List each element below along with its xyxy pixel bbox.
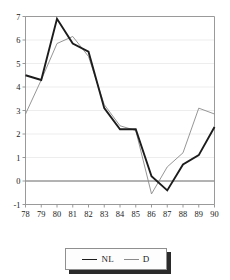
y-tick-label: 2 (16, 130, 20, 139)
x-tick-label: 82 (84, 210, 92, 219)
x-tick-label: 81 (69, 210, 77, 219)
series-line-d (26, 36, 215, 193)
x-axis-tick-labels: 78798081828384858687888990 (21, 210, 218, 219)
legend-label-d: D (143, 255, 150, 264)
x-tick-label: 85 (132, 210, 140, 219)
series-path-d (26, 36, 215, 193)
y-tick-label: -1 (14, 201, 21, 210)
series-path-nl (26, 19, 215, 191)
y-tick-label: 3 (16, 107, 20, 116)
x-tick-label: 83 (100, 210, 108, 219)
x-tick-label: 78 (21, 210, 29, 219)
x-tick-label: 89 (195, 210, 203, 219)
y-tick-label: 4 (16, 83, 21, 92)
legend-swatch-d-icon (124, 259, 139, 260)
y-tick-label: 1 (16, 154, 20, 163)
gridlines (26, 40, 215, 158)
x-tick-label: 86 (147, 210, 155, 219)
legend-swatch-nl-icon (82, 259, 97, 260)
x-tick-label: 80 (53, 210, 61, 219)
x-tick-label: 90 (210, 210, 218, 219)
x-tick-label: 84 (116, 210, 125, 219)
y-tick-label: 5 (16, 60, 20, 69)
x-tick-label: 88 (179, 210, 187, 219)
y-tick-label: 0 (16, 177, 20, 186)
chart-legend: NL D (65, 248, 167, 270)
series-line-nl (26, 19, 215, 191)
legend-label-nl: NL (101, 255, 113, 264)
y-axis-tick-labels: -101234567 (14, 13, 22, 210)
x-tick-label: 79 (37, 210, 45, 219)
legend-entry-nl[interactable]: NL (82, 255, 113, 264)
y-tick-label: 6 (16, 36, 20, 45)
x-tick-label: 87 (163, 210, 171, 219)
y-tick-label: 7 (16, 13, 20, 22)
line-chart: -101234567 78798081828384858687888990 (0, 0, 230, 280)
chart-figure: -101234567 78798081828384858687888990 NL… (0, 0, 230, 280)
legend-entry-d[interactable]: D (124, 255, 150, 264)
